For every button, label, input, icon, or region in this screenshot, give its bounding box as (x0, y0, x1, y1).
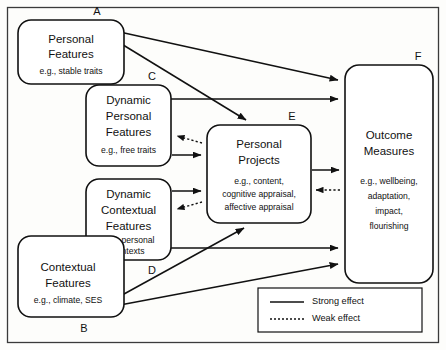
edge-a-to-f (97, 27, 338, 80)
node-personal-features-title-1: Personal (48, 33, 93, 45)
node-label-f: F (415, 50, 422, 62)
node-label-c: C (148, 70, 156, 82)
node-dynamic-contextual-features-title-1: Dynamic (106, 188, 151, 200)
legend: Strong effect Weak effect (258, 288, 422, 332)
node-personal-projects-title-2: Projects (238, 154, 280, 166)
node-label-a: A (93, 5, 101, 17)
node-dynamic-personal-features-subtitle: e.g., free traits (101, 145, 156, 155)
node-personal-projects[interactable]: Personal Projects e.g., content, cogniti… (207, 110, 311, 223)
node-label-e: E (288, 110, 295, 122)
node-outcome-measures-title-1: Outcome (366, 129, 413, 141)
node-outcome-measures-subtitle-2: adaptation, (368, 191, 411, 201)
node-dynamic-contextual-features-title-3: Features (106, 220, 152, 232)
node-personal-projects-subtitle-1: e.g., content, (234, 176, 284, 186)
node-dynamic-personal-features-title-2: Personal (106, 110, 151, 122)
node-outcome-measures-box[interactable] (345, 65, 433, 283)
node-label-d: D (148, 264, 156, 276)
node-dynamic-personal-features-title-1: Dynamic (106, 94, 151, 106)
node-outcome-measures-title-2: Measures (364, 145, 415, 157)
node-contextual-features-title-1: Contextual (41, 261, 96, 273)
legend-box (258, 288, 422, 332)
node-outcome-measures-subtitle-4: flourishing (369, 221, 408, 231)
node-personal-features-subtitle: e.g., stable traits (39, 66, 102, 76)
node-dynamic-contextual-features-title-2: Contextual (101, 204, 156, 216)
node-contextual-features[interactable]: Contextual Features e.g., climate, SES B (18, 236, 124, 334)
edge-e-to-c-weak (177, 136, 202, 143)
edge-e-to-d-weak (177, 202, 202, 209)
node-outcome-measures-subtitle-1: e.g., wellbeing, (360, 176, 417, 186)
node-contextual-features-title-2: Features (45, 277, 91, 289)
legend-strong-label: Strong effect (312, 296, 364, 306)
node-personal-projects-title-1: Personal (236, 138, 281, 150)
model-diagram: Personal Features e.g., stable traits A … (0, 0, 446, 350)
node-personal-projects-subtitle-2: cognitive appraisal, (222, 189, 296, 199)
node-personal-features-title-2: Features (48, 48, 94, 60)
node-personal-projects-subtitle-3: affective appraisal (224, 202, 293, 212)
legend-weak-label: Weak effect (312, 313, 361, 323)
node-outcome-measures[interactable]: Outcome Measures e.g., wellbeing, adapta… (345, 50, 433, 283)
node-contextual-features-subtitle: e.g., climate, SES (34, 295, 103, 305)
node-outcome-measures-subtitle-3: impact, (375, 206, 403, 216)
node-dynamic-personal-features-title-3: Features (106, 126, 152, 138)
diagram-page: Personal Features e.g., stable traits A … (0, 0, 446, 350)
node-dynamic-personal-features[interactable]: Dynamic Personal Features e.g., free tra… (86, 70, 171, 166)
node-personal-features[interactable]: Personal Features e.g., stable traits A (18, 5, 124, 84)
node-label-b: B (80, 322, 87, 334)
